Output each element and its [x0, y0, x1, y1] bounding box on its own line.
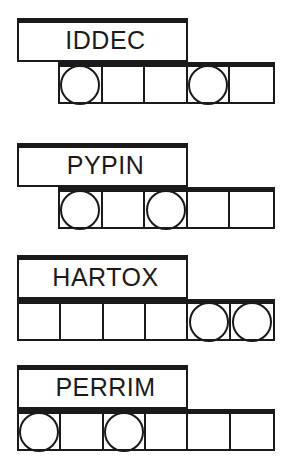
cell[interactable]	[188, 414, 230, 449]
circle-counter-icon	[60, 65, 100, 105]
name-label-box: PERRIM	[17, 365, 188, 409]
cell[interactable]	[231, 304, 273, 339]
cell[interactable]	[60, 67, 103, 102]
cell[interactable]	[231, 414, 273, 449]
name-label-box: IDDEC	[17, 18, 188, 62]
circle-counter-icon	[189, 302, 229, 342]
cell[interactable]	[145, 192, 188, 227]
cell[interactable]	[230, 67, 273, 102]
cell[interactable]	[104, 414, 146, 449]
cell[interactable]	[146, 414, 188, 449]
name-label-text: PERRIM	[49, 375, 155, 402]
circle-counter-icon	[60, 190, 100, 230]
cell[interactable]	[145, 67, 188, 102]
cell-row	[17, 409, 275, 451]
circle-counter-icon	[104, 412, 144, 452]
name-label-text: PYPIN	[61, 153, 145, 180]
circle-counter-icon	[232, 302, 272, 342]
cell[interactable]	[230, 192, 273, 227]
cell[interactable]	[19, 414, 61, 449]
cell[interactable]	[188, 67, 231, 102]
circle-counter-icon	[188, 65, 228, 105]
cell[interactable]	[103, 192, 146, 227]
cell[interactable]	[61, 414, 103, 449]
name-label-text: IDDEC	[59, 28, 145, 55]
cell[interactable]	[104, 304, 146, 339]
name-label-text: HARTOX	[46, 265, 158, 292]
cell-row	[58, 187, 275, 229]
cell[interactable]	[146, 304, 188, 339]
cell[interactable]	[188, 304, 230, 339]
cell[interactable]	[61, 304, 103, 339]
cell-row	[58, 62, 275, 104]
name-label-box: PYPIN	[17, 143, 188, 187]
cell[interactable]	[103, 67, 146, 102]
name-label-box: HARTOX	[17, 255, 188, 299]
cell-row	[17, 299, 275, 341]
circle-counter-icon	[19, 412, 59, 452]
cell[interactable]	[60, 192, 103, 227]
cell[interactable]	[188, 192, 231, 227]
circle-counter-icon	[146, 190, 186, 230]
cell[interactable]	[19, 304, 61, 339]
worksheet-canvas: IDDECPYPINHARTOXPERRIM	[0, 0, 295, 468]
